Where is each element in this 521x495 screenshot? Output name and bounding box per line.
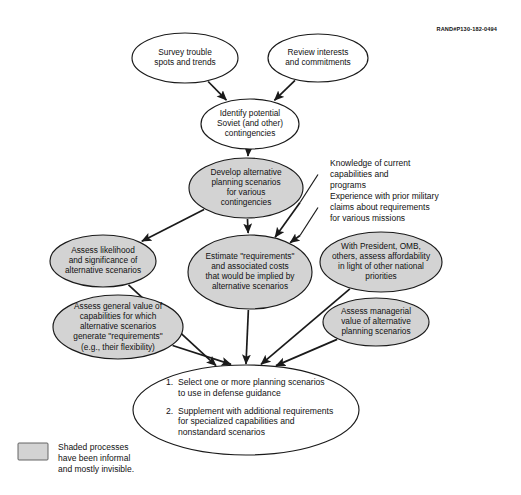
node-label-estimate-requirements: alternative scenarios [212,281,288,291]
annotation-experience-prior-military-claims: Experience with prior militaryclaims abo… [330,191,439,223]
annotation-line: for various missions [330,213,405,223]
edge-estimate-to-outcome [246,310,248,364]
outcome-item-line: for specialized capabilities and [178,416,295,426]
leader-experience-to-estimate [300,208,318,236]
node-label-identify-contingencies: Identify potential [220,108,281,118]
outcome-item-number: 2. [166,406,173,416]
node-label-survey-trouble-spots: spots and trends [154,57,215,67]
node-label-develop-scenarios: Develop alternative [210,167,281,177]
outcome-item-line: nonstandard scenarios [178,427,265,437]
node-review-interests: Review interestsand commitments [268,34,368,82]
edge-experience-to-estimate [290,236,300,243]
outcome-item-number: 1. [166,377,173,387]
node-survey-trouble-spots: Survey troublespots and trends [132,33,238,83]
annotation-line: capabilities and [330,169,389,179]
edge-survey-to-identify [208,81,226,100]
node-develop-scenarios: Develop alternativeplanning scenariosfor… [189,158,303,218]
flow-diagram-canvas: Survey troublespots and trendsReview int… [0,0,521,495]
node-label-assess-affordability: in light of other national [338,261,424,271]
annotation-knowledge-of-current-capabilities: Knowledge of currentcapabilities andprog… [330,158,411,190]
node-label-assess-managerial-value: Assess managerial [341,306,411,316]
node-label-assess-managerial-value: value of alternative [341,316,411,326]
node-label-estimate-requirements: Estimate "requirements" [206,251,295,261]
node-label-assess-general-value: (e.g., their flexibility) [81,342,155,352]
edge-develop-to-estimate [247,219,248,233]
edge-develop-to-likelihood [142,209,204,241]
node-label-estimate-requirements: and associated costs [211,261,288,271]
legend-text-block: Shaded processeshave been informaland mo… [58,442,134,474]
node-label-identify-contingencies: contingencies [225,128,276,138]
annotation-line: claims about requirements [330,202,430,212]
node-select-scenarios: 1.Select one or more planning scenariost… [133,365,359,455]
node-label-identify-contingencies: Soviet (and other) [217,118,283,128]
legend-line: Shaded processes [58,442,128,452]
node-assess-general-value: Assess general value ofcapabilities for … [53,295,183,359]
node-label-assess-general-value: generate "requirements" [73,331,162,341]
legend-shaded-swatch [18,443,48,460]
node-label-assess-general-value: Assess general value of [74,301,163,311]
outcome-node-layer: 1.Select one or more planning scenariost… [133,365,359,455]
annotations-layer: Knowledge of currentcapabilities andprog… [330,158,439,223]
legend: Shaded processeshave been informaland mo… [18,442,134,474]
annotation-line: Knowledge of current [330,158,411,168]
node-label-estimate-requirements: that would be implied by [205,271,295,281]
outcome-item-line: to use in defense guidance [178,388,281,398]
node-identify-contingencies: Identify potentialSoviet (and other)cont… [201,99,299,149]
node-label-assess-managerial-value: planning scenarios [341,326,410,336]
node-assess-affordability: With President, OMB,others, assess affor… [320,232,442,292]
flow-diagram-svg: Survey troublespots and trendsReview int… [0,0,521,495]
node-label-develop-scenarios: planning scenarios [211,177,280,187]
node-label-assess-general-value: alternative scenarios [80,321,156,331]
node-estimate-requirements: Estimate "requirements"and associated co… [188,235,312,309]
annotation-line: Experience with prior military [330,191,439,201]
node-label-review-interests: Review interests [288,47,349,57]
node-label-review-interests: and commitments [285,57,350,67]
document-identifier: RAND#P130-182-0494 [436,26,497,32]
node-label-develop-scenarios: for various [227,187,266,197]
outcome-item-line: Select one or more planning scenarios [178,377,325,387]
edge-general-value-to-outcome [173,346,231,365]
node-label-assess-affordability: With President, OMB, [341,241,421,251]
node-label-assess-general-value: capabilities for which [80,311,157,321]
node-label-develop-scenarios: contingencies [221,197,272,207]
node-label-assess-likelihood: alternative scenarios [65,265,141,275]
node-label-survey-trouble-spots: Survey trouble [158,47,212,57]
outcome-item-line: Supplement with additional requirements [178,406,333,416]
node-label-assess-affordability: priorities [365,271,396,281]
node-label-assess-likelihood: Assess likelihood [71,245,135,255]
annotation-line: programs [330,180,366,190]
node-assess-likelihood: Assess likelihoodand significance ofalte… [50,235,156,287]
legend-line: and mostly invisible. [58,464,134,474]
node-label-assess-likelihood: and significance of [69,255,138,265]
edge-review-to-identify [274,80,295,100]
node-label-assess-affordability: others, assess affordability [332,251,431,261]
node-assess-managerial-value: Assess managerialvalue of alternativepla… [323,298,429,346]
legend-line: have been informal [58,453,130,463]
